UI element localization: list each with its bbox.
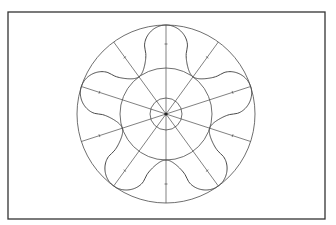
- diagram-canvas: [0, 0, 336, 225]
- tick-mark: [99, 91, 100, 94]
- polar-star-diagram: [0, 0, 336, 225]
- radial-line: [81, 114, 166, 142]
- center-point: [164, 112, 167, 115]
- tick-mark: [232, 91, 233, 94]
- tick-mark: [99, 134, 100, 137]
- tick-mark: [232, 134, 233, 137]
- radial-line: [166, 114, 251, 142]
- radial-line: [166, 86, 251, 114]
- radial-line: [81, 86, 166, 114]
